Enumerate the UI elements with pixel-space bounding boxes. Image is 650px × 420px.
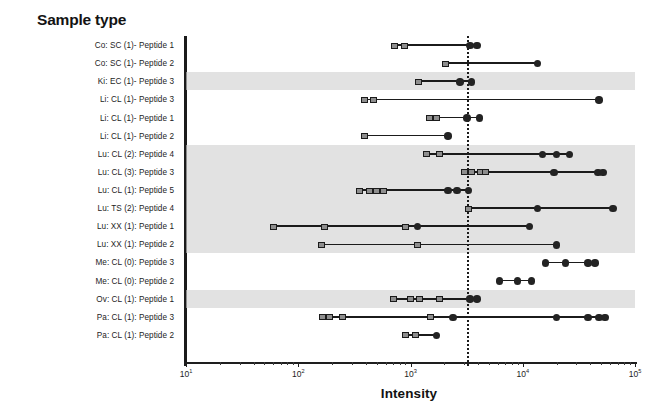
x-tick-major bbox=[523, 362, 524, 367]
data-point-square[interactable] bbox=[414, 242, 421, 248]
data-point-square[interactable] bbox=[321, 224, 328, 230]
data-point-circle[interactable] bbox=[553, 241, 561, 249]
data-point-square[interactable] bbox=[361, 133, 368, 139]
x-tick-minor bbox=[393, 362, 394, 365]
series-row[interactable] bbox=[186, 81, 635, 82]
data-point-circle[interactable] bbox=[514, 277, 522, 285]
data-point-square[interactable] bbox=[402, 332, 409, 338]
data-point-square[interactable] bbox=[482, 169, 489, 175]
x-tick-major bbox=[186, 362, 187, 367]
data-point-square[interactable] bbox=[433, 115, 440, 121]
category-label: Lu: CL (2): Peptide 4 bbox=[98, 149, 174, 158]
x-tick-minor bbox=[220, 362, 221, 365]
data-point-square[interactable] bbox=[318, 242, 325, 248]
data-point-circle[interactable] bbox=[476, 114, 484, 122]
x-tick-minor bbox=[254, 362, 255, 365]
x-tick-minor bbox=[273, 362, 274, 365]
x-tick-label: 104 bbox=[516, 369, 529, 379]
data-point-circle[interactable] bbox=[591, 259, 599, 267]
data-point-circle[interactable] bbox=[433, 332, 441, 340]
data-point-circle[interactable] bbox=[473, 42, 481, 50]
data-point-square[interactable] bbox=[390, 296, 397, 302]
data-point-square[interactable] bbox=[402, 224, 409, 230]
category-label: Lu: XX (1): Peptide 1 bbox=[97, 222, 174, 231]
page-title: Sample type bbox=[37, 11, 126, 29]
series-row[interactable] bbox=[186, 226, 635, 227]
range-connector-line bbox=[365, 135, 448, 137]
series-row[interactable] bbox=[186, 63, 635, 64]
data-point-circle[interactable] bbox=[473, 295, 481, 303]
x-tick-minor bbox=[478, 362, 479, 365]
plot-area bbox=[186, 36, 635, 344]
data-point-square[interactable] bbox=[356, 188, 363, 194]
data-point-circle[interactable] bbox=[562, 259, 570, 267]
x-tick-minor bbox=[444, 362, 445, 365]
data-point-square[interactable] bbox=[436, 296, 443, 302]
series-row[interactable] bbox=[186, 208, 635, 209]
data-point-square[interactable] bbox=[366, 188, 373, 194]
data-point-square[interactable] bbox=[468, 169, 475, 175]
data-point-circle[interactable] bbox=[463, 114, 471, 122]
data-point-circle[interactable] bbox=[553, 314, 561, 322]
x-tick-minor bbox=[610, 362, 611, 365]
series-row[interactable] bbox=[186, 136, 635, 137]
series-row[interactable] bbox=[186, 99, 635, 100]
data-point-circle[interactable] bbox=[444, 187, 452, 195]
data-point-circle[interactable] bbox=[534, 60, 542, 68]
series-row[interactable] bbox=[186, 190, 635, 191]
data-point-circle[interactable] bbox=[449, 314, 457, 322]
series-row[interactable] bbox=[186, 299, 635, 300]
data-point-circle[interactable] bbox=[601, 314, 609, 322]
data-point-square[interactable] bbox=[465, 206, 472, 212]
data-point-circle[interactable] bbox=[444, 132, 452, 140]
data-point-square[interactable] bbox=[416, 296, 423, 302]
data-point-square[interactable] bbox=[407, 296, 414, 302]
category-label: Co: SC (1)- Peptide 2 bbox=[95, 59, 174, 68]
data-point-square[interactable] bbox=[412, 332, 419, 338]
data-point-square[interactable] bbox=[427, 314, 434, 320]
series-row[interactable] bbox=[186, 281, 635, 282]
data-point-square[interactable] bbox=[326, 314, 333, 320]
data-point-square[interactable] bbox=[423, 151, 430, 157]
data-point-circle[interactable] bbox=[599, 169, 607, 177]
data-point-circle[interactable] bbox=[453, 187, 461, 195]
category-label: Li: CL (1)- Peptide 3 bbox=[100, 95, 174, 104]
series-row[interactable] bbox=[186, 154, 635, 155]
series-row[interactable] bbox=[186, 45, 635, 46]
data-point-square[interactable] bbox=[436, 151, 443, 157]
data-point-square[interactable] bbox=[391, 43, 398, 49]
data-point-circle[interactable] bbox=[566, 151, 574, 159]
x-tick-minor bbox=[618, 362, 619, 365]
data-point-circle[interactable] bbox=[528, 277, 536, 285]
data-point-square[interactable] bbox=[361, 97, 368, 103]
series-row[interactable] bbox=[186, 335, 635, 336]
series-row[interactable] bbox=[186, 118, 635, 119]
series-row[interactable] bbox=[186, 317, 635, 318]
data-point-square[interactable] bbox=[370, 97, 377, 103]
x-axis-title-text: Intensity bbox=[213, 386, 437, 401]
data-point-square[interactable] bbox=[461, 169, 468, 175]
series-row[interactable] bbox=[186, 172, 635, 173]
series-row[interactable] bbox=[186, 262, 635, 263]
category-label: Li: CL (1)- Peptide 1 bbox=[100, 113, 174, 122]
data-point-square[interactable] bbox=[270, 224, 277, 230]
data-point-circle[interactable] bbox=[468, 78, 476, 86]
series-row[interactable] bbox=[186, 244, 635, 245]
data-point-square[interactable] bbox=[339, 314, 346, 320]
data-point-square[interactable] bbox=[401, 43, 408, 49]
x-tick-minor bbox=[352, 362, 353, 365]
data-point-square[interactable] bbox=[415, 79, 422, 85]
category-label: Li: CL (1)- Peptide 2 bbox=[100, 131, 174, 140]
data-point-square[interactable] bbox=[442, 61, 449, 67]
data-point-circle[interactable] bbox=[584, 314, 592, 322]
x-tick-minor bbox=[601, 362, 602, 365]
data-point-circle[interactable] bbox=[550, 169, 558, 177]
data-point-circle[interactable] bbox=[456, 78, 464, 86]
x-tick-label: 103 bbox=[404, 369, 417, 379]
data-point-circle[interactable] bbox=[496, 277, 504, 285]
x-tick-minor bbox=[240, 362, 241, 365]
data-point-square[interactable] bbox=[380, 188, 387, 194]
category-label: Lu: CL (3): Peptide 3 bbox=[98, 167, 174, 176]
data-point-circle[interactable] bbox=[542, 259, 550, 267]
data-point-circle[interactable] bbox=[595, 96, 603, 104]
